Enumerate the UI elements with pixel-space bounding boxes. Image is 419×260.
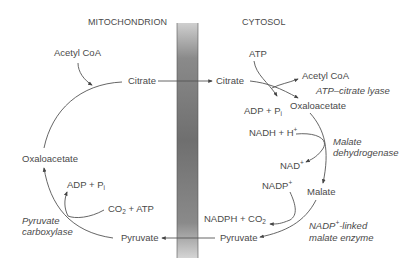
mito-oxaloacetate-label: Oxaloacetate (22, 153, 78, 164)
cyto-adp-pi-label: ADP + Pi (244, 105, 282, 117)
cyto-nad-label: NAD+ (280, 159, 304, 171)
nadp-to-nadph-arrow (270, 192, 295, 224)
malate-dehydrogenase-label-1: Malate (333, 136, 362, 147)
acetyl-coa-input-arrow (78, 63, 92, 85)
cyto-malate-label: Malate (307, 186, 336, 197)
cyto-citrate-label: Citrate (216, 75, 244, 86)
cyto-oxaloacetate-label: Oxaloacetate (290, 100, 346, 111)
citrate-shuttle-diagram: MITOCHONDRION CYTOSOL Acetyl CoA Citrate… (0, 0, 419, 260)
cyto-acetyl-coa-label: Acetyl CoA (302, 70, 350, 81)
malate-dehydrogenase-label-2: dehydrogenase (333, 147, 399, 158)
mito-co2-atp-label: CO2 + ATP (108, 203, 154, 215)
citrate-to-oxaloacetate-arrow (250, 81, 298, 98)
mito-acetyl-coa-label: Acetyl CoA (54, 47, 102, 58)
mito-citrate-label: Citrate (128, 75, 156, 86)
malic-enzyme-label-2: malate enzyme (309, 232, 373, 243)
mito-adp-pi-label: ADP + Pi (67, 179, 105, 191)
malic-enzyme-label-1: NADP+-linked (309, 219, 368, 231)
cyto-atp-label: ATP (249, 48, 267, 59)
cytosol-header: CYTOSOL (242, 17, 286, 27)
mitochondrion-header: MITOCHONDRION (88, 17, 167, 27)
malate-to-pyruvate-arrow (260, 200, 316, 237)
pyruvate-carboxylase-label-1: Pyruvate (22, 215, 60, 226)
co2-atp-input-curve (68, 210, 104, 218)
adp-pi-output-arrow (65, 192, 68, 216)
to-acetyl-coa-arrow (272, 79, 298, 88)
atp-citrate-lyase-label: ATP–citrate lyase (315, 85, 390, 96)
nadh-to-nad-arrow (296, 134, 324, 162)
cyto-nadp-label: NADP+ (262, 179, 292, 191)
cyto-pyruvate-label: Pyruvate (220, 232, 258, 243)
pyruvate-carboxylase-label-2: carboxylase (22, 226, 73, 237)
cyto-nadph-co2-label: NADPH + CO2 (204, 213, 266, 225)
mito-pyruvate-label: Pyruvate (121, 232, 159, 243)
oxaloacetate-to-citrate-arc (44, 82, 122, 148)
mitochondrial-membrane (177, 23, 198, 258)
cyto-nadh-h-label: NADH + H+ (249, 126, 298, 138)
atp-to-adp-arrow (254, 61, 277, 96)
